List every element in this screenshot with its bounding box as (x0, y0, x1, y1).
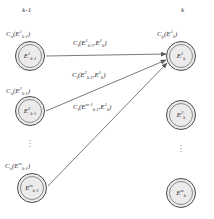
cost-fn-text: Cu(E2k-1) (6, 87, 30, 95)
edge-label-Ct-E1km1-E1k: Ct(E1k-1,E1k) (73, 40, 106, 47)
ellipsis-left-column: · · · (25, 139, 35, 149)
edge-Emkm1-to-E1k (48, 63, 167, 186)
node-label-E2-k: E2k (177, 112, 186, 119)
cost-fn-text: Cp(E1k) (157, 30, 177, 38)
edge-label-text: Ct(E1k-1,E1k) (73, 39, 106, 47)
cost-label-Cu-E1-km1: Cu(E1k-1) (6, 31, 30, 38)
cost-fn-text: Cu(E1k-1) (6, 30, 30, 38)
edge-E1km1-to-E1k (46, 54, 166, 56)
node-E2-k[interactable]: E2k (166, 100, 196, 130)
edge-label-Ct-E2km1-E1k: Ct(E2k-1,E1k) (72, 72, 105, 79)
node-Em-k-minus-1[interactable]: Emk-1 (17, 173, 47, 203)
node-E1-k[interactable]: E1k (166, 41, 196, 71)
edge-label-text: Ct(E2k-1,E1k) (72, 71, 105, 79)
ellipsis-right-column: · · · (176, 144, 186, 154)
edge-label-Ct-Emkm1-E1k: Ct(Em-1k-1,E1k) (73, 104, 111, 111)
cost-fn-text: Cu(Emk-1) (5, 162, 30, 170)
cost-label-Cu-Em-km1: Cu(Emk-1) (5, 163, 30, 170)
node-Em-k[interactable]: Emk (166, 178, 196, 208)
node-label-E1-k-minus-1: E1k-1 (24, 53, 36, 60)
cost-label-Cp-E1-k: Cp(E1k) (157, 31, 177, 38)
node-E2-k-minus-1[interactable]: E2k-1 (15, 96, 45, 126)
node-label-E1-k: E1k (177, 53, 186, 60)
edge-label-text: Ct(Em-1k-1,E1k) (73, 103, 111, 111)
node-label-Em-k: Emk (176, 190, 186, 197)
diagram-canvas: k-1 k Cu(E1k-1) Cu(E2k-1) Cu(Emk-1) Cp(E… (0, 0, 214, 219)
node-label-E2-k-minus-1: E2k-1 (24, 108, 36, 115)
node-E1-k-minus-1[interactable]: E1k-1 (15, 41, 45, 71)
node-label-Em-k-minus-1: Emk-1 (25, 185, 38, 192)
cost-label-Cu-E2-km1: Cu(E2k-1) (6, 88, 30, 95)
